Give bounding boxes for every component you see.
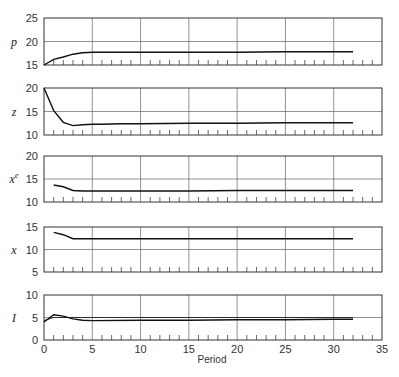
x-tick-label: 20 bbox=[231, 343, 243, 355]
stacked-line-charts: 252015p201510z201510xe15105x1050I0510152… bbox=[0, 0, 399, 377]
data-line bbox=[44, 88, 353, 126]
x-axis-label: Period bbox=[198, 354, 227, 365]
panel-4: 15105x bbox=[10, 221, 382, 278]
x-tick-label: 15 bbox=[183, 343, 195, 355]
y-tick-label: 15 bbox=[26, 59, 38, 71]
y-tick-label: 0 bbox=[32, 334, 38, 346]
y-tick-label: 20 bbox=[26, 82, 38, 94]
x-tick-label: 35 bbox=[376, 343, 388, 355]
data-line bbox=[44, 315, 353, 322]
panel-1: 252015p bbox=[10, 12, 382, 71]
y-tick-label: 20 bbox=[26, 36, 38, 48]
y-tick-label: 15 bbox=[26, 173, 38, 185]
y-axis-label: x bbox=[10, 243, 17, 257]
x-tick-label: 0 bbox=[41, 343, 47, 355]
y-tick-label: 10 bbox=[26, 289, 38, 301]
y-tick-label: 15 bbox=[26, 221, 38, 233]
y-axis-label: z bbox=[11, 105, 17, 119]
y-tick-label: 25 bbox=[26, 12, 38, 24]
panel-3: 201510xe bbox=[9, 150, 382, 208]
x-tick-label: 10 bbox=[134, 343, 146, 355]
y-axis-label: I bbox=[11, 311, 17, 325]
x-tick-label: 30 bbox=[328, 343, 340, 355]
y-tick-label: 10 bbox=[26, 129, 38, 141]
y-axis-label: p bbox=[10, 35, 17, 49]
y-tick-label: 20 bbox=[26, 150, 38, 162]
x-tick-label: 5 bbox=[89, 343, 95, 355]
y-tick-label: 5 bbox=[32, 266, 38, 278]
y-tick-label: 5 bbox=[32, 312, 38, 324]
y-tick-label: 15 bbox=[26, 106, 38, 118]
data-line bbox=[54, 185, 353, 191]
panel-2: 201510z bbox=[11, 82, 382, 141]
y-tick-label: 10 bbox=[26, 244, 38, 256]
y-axis-label: xe bbox=[9, 171, 19, 186]
panel-5: 1050I bbox=[11, 289, 382, 346]
data-line bbox=[54, 232, 353, 238]
x-tick-label: 25 bbox=[279, 343, 291, 355]
y-tick-label: 10 bbox=[26, 196, 38, 208]
